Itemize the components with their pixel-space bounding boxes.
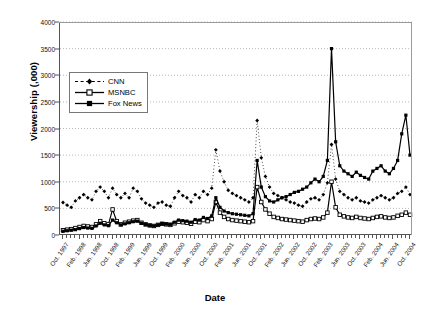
x-tick-mark xyxy=(359,235,360,239)
x-tick-mark xyxy=(240,235,241,238)
x-tick-mark xyxy=(202,235,203,238)
chart-legend: CNN MSNBC Fox News xyxy=(69,72,148,113)
x-tick-mark xyxy=(223,235,224,238)
x-tick-mark xyxy=(289,235,290,238)
x-tick-mark xyxy=(178,235,179,239)
legend-item-fox-news: Fox News xyxy=(74,98,142,109)
x-tick-mark xyxy=(153,235,154,238)
x-tick-mark xyxy=(169,235,170,238)
x-tick-mark xyxy=(157,235,158,238)
x-tick-mark xyxy=(401,235,402,238)
x-tick-mark xyxy=(74,235,75,238)
x-tick-mark xyxy=(95,235,96,239)
x-tick-mark xyxy=(380,235,381,238)
x-tick-mark xyxy=(364,235,365,238)
legend-item-cnn: CNN xyxy=(74,76,142,87)
x-axis-ticks: Oct. 1997Feb. 1998Jun. 1998Oct. 1998Feb.… xyxy=(0,0,430,313)
x-tick-mark xyxy=(384,235,385,238)
solid-filled-key xyxy=(74,98,105,109)
x-tick-mark xyxy=(409,235,410,239)
x-tick-mark xyxy=(244,235,245,239)
x-tick-mark xyxy=(116,235,117,238)
x-tick-mark xyxy=(132,235,133,238)
x-tick-mark xyxy=(355,235,356,238)
viewership-line-chart: Viewership (,000) 0500100015002000250030… xyxy=(0,0,430,313)
x-tick-mark xyxy=(256,235,257,238)
x-tick-mark xyxy=(326,235,327,239)
x-tick-mark xyxy=(248,235,249,238)
x-tick-mark xyxy=(376,235,377,239)
x-tick-mark xyxy=(198,235,199,238)
x-tick-mark xyxy=(269,235,270,238)
x-tick-mark xyxy=(285,235,286,238)
x-tick-mark xyxy=(306,235,307,238)
x-tick-mark xyxy=(227,235,228,239)
x-tick-mark xyxy=(231,235,232,238)
x-tick-mark xyxy=(165,235,166,238)
x-tick-mark xyxy=(124,235,125,238)
x-tick-mark xyxy=(190,235,191,238)
x-tick-mark xyxy=(339,235,340,238)
x-tick-mark xyxy=(397,235,398,238)
x-tick-mark xyxy=(140,235,141,238)
legend-key-svg-cnn xyxy=(74,76,105,87)
x-tick-mark xyxy=(343,235,344,239)
x-tick-mark xyxy=(194,235,195,239)
legend-key-svg-fox xyxy=(74,98,105,109)
x-tick-mark xyxy=(277,235,278,239)
x-tick-mark xyxy=(136,235,137,238)
x-tick-mark xyxy=(331,235,332,238)
x-tick-mark xyxy=(310,235,311,239)
dotted-diamond-key xyxy=(74,76,105,87)
x-tick-mark xyxy=(264,235,265,238)
x-tick-mark xyxy=(351,235,352,238)
x-tick-mark xyxy=(347,235,348,238)
x-tick-mark xyxy=(392,235,393,239)
x-tick-mark xyxy=(314,235,315,238)
legend-label-fox-news: Fox News xyxy=(108,98,142,109)
x-tick-mark xyxy=(70,235,71,238)
x-tick-mark xyxy=(83,235,84,238)
legend-label-cnn: CNN xyxy=(108,76,124,87)
x-tick-mark xyxy=(145,235,146,239)
x-tick-mark xyxy=(112,235,113,239)
x-tick-mark xyxy=(368,235,369,238)
x-tick-mark xyxy=(66,235,67,238)
x-tick-mark xyxy=(260,235,261,239)
x-tick-mark xyxy=(388,235,389,238)
x-tick-mark xyxy=(297,235,298,238)
legend-key-svg-msnbc xyxy=(74,87,105,98)
x-tick-mark xyxy=(302,235,303,238)
x-tick-mark xyxy=(236,235,237,238)
x-tick-mark xyxy=(207,235,208,238)
x-tick-mark xyxy=(128,235,129,239)
x-tick-mark xyxy=(149,235,150,238)
x-tick-mark xyxy=(107,235,108,238)
x-tick-mark xyxy=(335,235,336,238)
x-tick-mark xyxy=(372,235,373,238)
x-tick-mark xyxy=(405,235,406,238)
x-tick-mark xyxy=(186,235,187,238)
x-tick-mark xyxy=(87,235,88,238)
x-tick-mark xyxy=(79,235,80,239)
x-tick-mark xyxy=(103,235,104,238)
x-tick-mark xyxy=(281,235,282,238)
solid-open-square-key xyxy=(74,87,105,98)
x-tick-mark xyxy=(161,235,162,239)
x-tick-mark xyxy=(322,235,323,238)
x-tick-mark xyxy=(211,235,212,239)
x-tick-mark xyxy=(215,235,216,238)
x-tick-mark xyxy=(62,235,63,239)
x-tick-mark xyxy=(91,235,92,238)
x-tick-mark xyxy=(318,235,319,238)
legend-item-msnbc: MSNBC xyxy=(74,87,142,98)
x-tick-mark xyxy=(120,235,121,238)
x-axis-title: Date xyxy=(0,292,430,303)
x-tick-mark xyxy=(273,235,274,238)
x-tick-mark xyxy=(252,235,253,238)
x-tick-mark xyxy=(99,235,100,238)
x-tick-mark xyxy=(219,235,220,238)
x-tick-mark xyxy=(182,235,183,238)
legend-label-msnbc: MSNBC xyxy=(108,87,135,98)
x-tick-mark xyxy=(174,235,175,238)
